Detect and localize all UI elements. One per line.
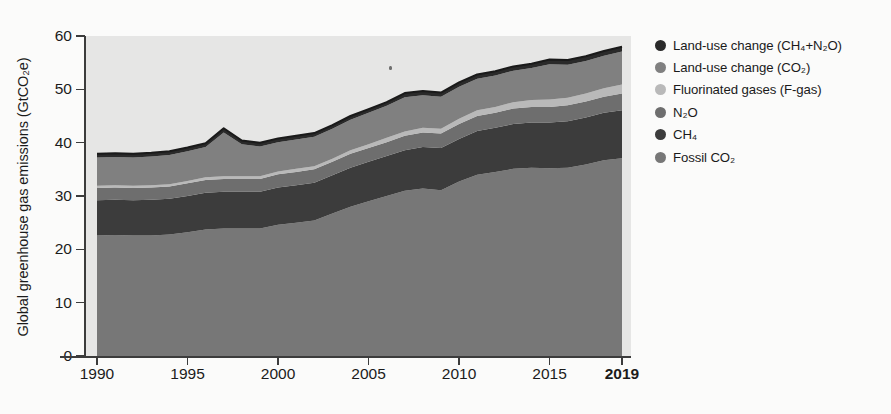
- legend-label: N₂O: [673, 106, 698, 119]
- y-tick-label: 50: [26, 81, 72, 97]
- x-tick-label: 2019: [592, 366, 652, 382]
- x-tick-label: 2000: [248, 366, 308, 382]
- legend-swatch-dot-icon: [655, 152, 666, 163]
- y-tick-label: 20: [26, 241, 72, 257]
- legend-item[interactable]: N₂O: [655, 101, 887, 123]
- x-tick-label: 2015: [520, 366, 580, 382]
- x-tick-mark: [368, 357, 370, 365]
- legend-item[interactable]: Fluorinated gases (F-gas): [655, 79, 887, 101]
- y-tick-label: 40: [26, 135, 72, 151]
- x-tick-label: 1990: [67, 366, 127, 382]
- x-tick-mark: [277, 357, 279, 365]
- legend-label: Land-use change (CO₂): [673, 61, 810, 74]
- x-tick-mark: [187, 357, 189, 365]
- legend-swatch-dot-icon: [655, 40, 666, 51]
- y-tick-label: 10: [26, 295, 72, 311]
- plot-area: [85, 36, 631, 356]
- legend-label: Fossil CO₂: [673, 151, 735, 164]
- x-tick-label: 2010: [429, 366, 489, 382]
- y-tick-label: 60: [26, 28, 72, 44]
- x-tick-label: 1995: [158, 366, 218, 382]
- chart-legend: Land-use change (CH₄+N₂O)Land-use change…: [655, 34, 887, 168]
- chart-figure: Global greenhouse gas emissions (GtCO₂e)…: [0, 0, 891, 414]
- x-axis-line: [60, 356, 631, 358]
- legend-label: Land-use change (CH₄+N₂O): [673, 39, 842, 52]
- x-tick-mark: [621, 357, 623, 365]
- legend-item[interactable]: CH₄: [655, 124, 887, 146]
- legend-label: CH₄: [673, 128, 697, 141]
- x-tick-mark: [96, 357, 98, 365]
- x-tick-mark: [458, 357, 460, 365]
- legend-swatch-dot-icon: [655, 129, 666, 140]
- legend-label: Fluorinated gases (F-gas): [673, 83, 822, 96]
- x-tick-label: 2005: [339, 366, 399, 382]
- x-tick-mark: [549, 357, 551, 365]
- legend-item[interactable]: Land-use change (CO₂): [655, 56, 887, 78]
- y-axis-line: [84, 36, 86, 357]
- scan-speckle-artifact: [389, 66, 392, 70]
- legend-item[interactable]: Fossil CO₂: [655, 146, 887, 168]
- legend-item[interactable]: Land-use change (CH₄+N₂O): [655, 34, 887, 56]
- legend-swatch-dot-icon: [655, 62, 666, 73]
- stacked-area-plot: [85, 36, 631, 356]
- legend-swatch-dot-icon: [655, 84, 666, 95]
- y-tick-label: 30: [26, 188, 72, 204]
- legend-swatch-dot-icon: [655, 107, 666, 118]
